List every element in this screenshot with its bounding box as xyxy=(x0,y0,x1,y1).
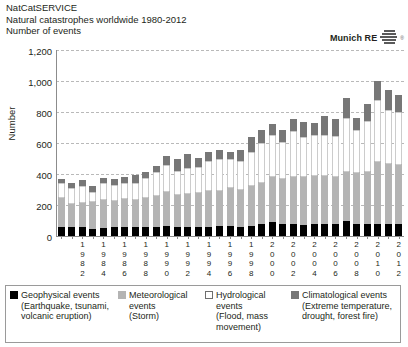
bar-slot-1993 xyxy=(193,50,204,236)
bar-segment-hyd-1994 xyxy=(205,161,212,191)
bar-segment-geo-2012 xyxy=(395,224,402,236)
x-label-digit: 8 xyxy=(101,259,105,269)
bar-slot-2008 xyxy=(351,50,362,236)
bar-segment-met-1999 xyxy=(258,183,265,224)
bar-1998[interactable] xyxy=(248,137,255,236)
bar-1988[interactable] xyxy=(142,172,149,236)
bar-slot-2003 xyxy=(299,50,310,236)
bar-1982[interactable] xyxy=(79,180,86,236)
x-label-digit: 9 xyxy=(143,250,147,260)
bar-1991[interactable] xyxy=(174,159,181,236)
bar-1990[interactable] xyxy=(163,156,170,236)
bar-1986[interactable] xyxy=(121,177,128,236)
bar-1981[interactable] xyxy=(68,183,75,236)
x-label-digit: 1 xyxy=(143,240,147,250)
bar-1995[interactable] xyxy=(216,150,223,236)
bar-1980[interactable] xyxy=(58,179,65,236)
legend-label: Hydrological xyxy=(216,290,266,301)
bar-1989[interactable] xyxy=(153,166,160,237)
bar-2007[interactable] xyxy=(343,98,350,236)
bar-segment-cli-1991 xyxy=(174,159,181,171)
x-axis-label-2012: 2012 xyxy=(394,240,405,282)
bar-segment-met-2003 xyxy=(300,177,307,225)
bar-2005[interactable] xyxy=(321,116,328,236)
x-axis-label-2002: 2002 xyxy=(288,240,299,282)
x-label-digit: 2 xyxy=(397,269,401,279)
x-axis-label-2003 xyxy=(299,240,310,282)
legend-item-geo[interactable]: Geophysical events(Earthquake, tsunami,v… xyxy=(10,290,118,340)
x-label-digit: 8 xyxy=(80,259,84,269)
y-tick-label-800: 800 xyxy=(36,108,52,119)
bar-segment-hyd-1986 xyxy=(121,183,128,199)
bar-2011[interactable] xyxy=(385,90,392,236)
bar-segment-geo-2001 xyxy=(279,224,286,236)
legend-item-hyd[interactable]: Hydrologicalevents(Flood, massmovement) xyxy=(205,290,291,340)
x-label-digit: 9 xyxy=(122,250,126,260)
legend-swatch-met-icon xyxy=(118,291,126,299)
bar-2004[interactable] xyxy=(311,123,318,236)
bar-segment-geo-1990 xyxy=(163,226,170,236)
bar-2012[interactable] xyxy=(395,95,402,236)
bar-2009[interactable] xyxy=(364,104,371,236)
legend-item-met[interactable]: Meteorologicalevents(Storm) xyxy=(118,290,205,340)
bar-segment-met-2002 xyxy=(290,177,297,224)
bar-2003[interactable] xyxy=(300,122,307,236)
bar-2002[interactable] xyxy=(290,119,297,236)
bar-segment-met-1981 xyxy=(68,204,75,227)
x-axis-label-1987 xyxy=(130,240,141,282)
bar-2008[interactable] xyxy=(353,118,360,236)
bar-1997[interactable] xyxy=(237,150,244,236)
bar-segment-geo-1986 xyxy=(121,227,128,236)
x-label-digit: 2 xyxy=(270,240,274,250)
bar-segment-cli-2004 xyxy=(311,123,318,135)
bar-slot-2001 xyxy=(277,50,288,236)
bar-slot-1997 xyxy=(235,50,246,236)
x-label-digit: 8 xyxy=(143,259,147,269)
bar-2000[interactable] xyxy=(269,124,276,236)
bar-segment-hyd-1987 xyxy=(132,183,139,201)
bar-segment-hyd-1992 xyxy=(184,168,191,194)
legend-description-line: events xyxy=(129,301,205,312)
x-axis-label-1998: 1998 xyxy=(246,240,257,282)
x-axis-label-1986: 1986 xyxy=(119,240,130,282)
bar-1984[interactable] xyxy=(100,178,107,236)
x-axis-label-2007 xyxy=(341,240,352,282)
x-label-digit: 1 xyxy=(186,240,190,250)
bar-1994[interactable] xyxy=(205,152,212,236)
x-label-digit: 1 xyxy=(165,240,169,250)
x-label-digit: 2 xyxy=(291,240,295,250)
bar-1987[interactable] xyxy=(132,175,139,236)
bar-segment-geo-1987 xyxy=(132,227,139,236)
bar-segment-cli-2006 xyxy=(332,119,339,136)
bar-segment-met-2007 xyxy=(343,172,350,222)
legend-description-line: (Extreme temperature, xyxy=(302,301,397,312)
bar-2006[interactable] xyxy=(332,119,339,236)
bar-slot-1984 xyxy=(98,50,109,236)
x-label-digit: 9 xyxy=(186,250,190,260)
bar-2010[interactable] xyxy=(374,81,381,236)
x-label-digit: 1 xyxy=(249,240,253,250)
x-label-digit: 6 xyxy=(122,269,126,279)
x-label-digit: 4 xyxy=(312,269,316,279)
bar-segment-hyd-2004 xyxy=(311,135,318,176)
bar-slot-1999 xyxy=(256,50,267,236)
bar-1996[interactable] xyxy=(227,152,234,236)
bar-segment-hyd-1985 xyxy=(111,185,118,201)
bar-slot-1988 xyxy=(140,50,151,236)
bar-segment-met-2012 xyxy=(395,165,402,224)
bar-1999[interactable] xyxy=(258,130,265,236)
legend-label: Climatological events xyxy=(302,290,387,301)
bar-segment-met-1997 xyxy=(237,190,244,227)
legend-label: Geophysical events xyxy=(21,290,100,301)
x-axis-label-1992: 1992 xyxy=(183,240,194,282)
bar-1983[interactable] xyxy=(89,186,96,236)
bar-slot-2000 xyxy=(267,50,278,236)
bar-1993[interactable] xyxy=(195,158,202,236)
bar-segment-hyd-1989 xyxy=(153,172,160,197)
legend-label: Meteorological xyxy=(129,290,188,301)
legend-item-cli[interactable]: Climatological events(Extreme temperatur… xyxy=(291,290,397,340)
bar-2001[interactable] xyxy=(279,130,286,236)
bar-1985[interactable] xyxy=(111,179,118,236)
bar-segment-hyd-1995 xyxy=(216,159,223,191)
bar-1992[interactable] xyxy=(184,154,191,236)
